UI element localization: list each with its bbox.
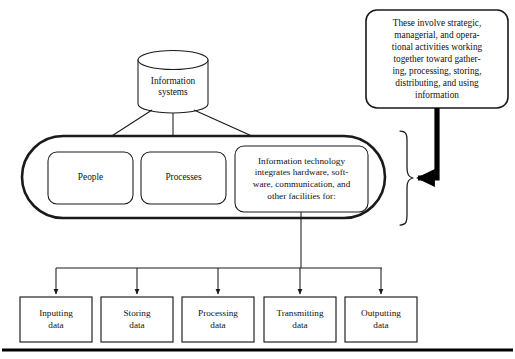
component-box-processes bbox=[141, 152, 226, 204]
function-box-storing-data bbox=[101, 297, 173, 342]
diagram-vector-layer bbox=[0, 0, 515, 359]
function-box-inputting-data bbox=[20, 297, 92, 342]
component-box-information-technology bbox=[235, 146, 368, 212]
diagram-canvas: Information systems These involve strate… bbox=[0, 0, 515, 359]
curly-brace bbox=[400, 131, 413, 225]
function-box-outputting-data bbox=[345, 297, 417, 342]
callout-box-shape bbox=[366, 10, 508, 108]
cylinder-shape bbox=[138, 51, 208, 114]
function-box-transmitting-data bbox=[264, 297, 336, 342]
function-box-processing-data bbox=[182, 297, 254, 342]
component-box-people bbox=[48, 152, 133, 204]
callout-connector-arrow bbox=[418, 108, 437, 178]
